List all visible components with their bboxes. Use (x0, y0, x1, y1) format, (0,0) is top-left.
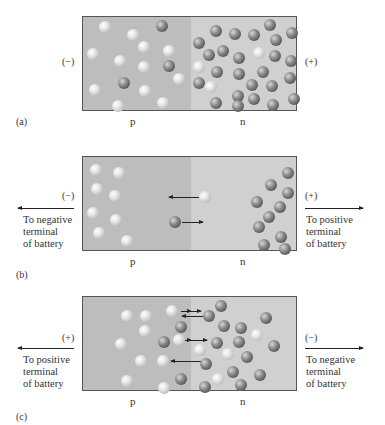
electron (210, 25, 222, 37)
hole (121, 235, 133, 247)
hole (163, 45, 175, 57)
hole (93, 227, 105, 239)
hole (113, 167, 125, 179)
hole (212, 373, 224, 385)
electron (233, 68, 245, 80)
electron (211, 337, 223, 349)
hole (99, 21, 111, 33)
arrow-segment (191, 316, 203, 317)
electron (267, 99, 279, 111)
electron (285, 55, 297, 67)
electron (203, 49, 215, 61)
right-terminal-label: To positive terminal of battery (306, 214, 353, 250)
arrow-right (305, 208, 363, 209)
hole (139, 325, 151, 337)
p-region (83, 157, 192, 250)
junction-box (82, 296, 297, 391)
junction-box (82, 16, 297, 111)
electron (215, 300, 227, 312)
electron (200, 358, 212, 370)
hole (87, 207, 99, 219)
electron (260, 312, 272, 324)
electron (257, 66, 269, 78)
arrow-left (18, 348, 74, 349)
electron (251, 196, 263, 208)
arrow-right (181, 311, 191, 312)
electron (118, 77, 130, 89)
hole (205, 81, 217, 93)
n-label: n (240, 115, 246, 127)
electron (233, 336, 245, 348)
hole (138, 61, 150, 73)
electron (158, 336, 170, 348)
arrow-right (191, 311, 201, 312)
electron (210, 97, 222, 109)
electron (156, 20, 168, 32)
arrow-left (18, 208, 74, 209)
hole (173, 73, 185, 85)
electron (248, 29, 260, 41)
electron (232, 100, 244, 112)
hole (90, 164, 102, 176)
electron (274, 201, 286, 213)
n-region (191, 157, 296, 250)
electron (217, 45, 229, 57)
electron (288, 93, 300, 105)
electron (269, 50, 281, 62)
electron (211, 66, 223, 78)
junction-box (82, 156, 297, 251)
left-polarity-label: (−) (62, 56, 74, 67)
n-label: n (240, 255, 246, 267)
electron (286, 27, 298, 39)
right-polarity-label: (−) (305, 332, 317, 343)
hole (135, 355, 147, 367)
electron (169, 216, 181, 228)
electron (218, 320, 230, 332)
arrow-left (169, 197, 191, 198)
electron (270, 34, 282, 46)
electron (265, 179, 277, 191)
hole (222, 348, 234, 360)
n-region (191, 17, 296, 110)
hole (199, 191, 211, 203)
electron (203, 310, 215, 322)
panel-b: (−) (+) To negative terminal of battery … (0, 140, 385, 280)
left-terminal-label: To positive terminal of battery (23, 354, 70, 390)
arrow-right (191, 340, 207, 341)
electron (254, 369, 266, 381)
arrow-segment (191, 197, 199, 198)
electron (193, 77, 205, 89)
electron (199, 381, 211, 393)
electron (275, 231, 287, 243)
hole (87, 48, 99, 60)
electron (268, 340, 280, 352)
p-label: p (130, 255, 136, 267)
hole (166, 305, 178, 317)
panel-caption: (c) (16, 411, 27, 423)
hole (89, 84, 101, 96)
hole (158, 382, 170, 394)
left-polarity-label: (−) (62, 190, 74, 201)
arrow-right (305, 348, 363, 349)
hole (110, 214, 122, 226)
electron (263, 211, 275, 223)
electron (253, 221, 265, 233)
p-label: p (130, 115, 136, 127)
hole (112, 100, 124, 112)
electron (235, 379, 247, 391)
hole (138, 41, 150, 53)
electron (279, 243, 291, 255)
panel-a: (−) (+) (0, 0, 385, 140)
p-label: p (130, 395, 136, 407)
electron (258, 239, 270, 251)
left-terminal-label: To negative terminal of battery (23, 214, 72, 250)
p-region (83, 17, 192, 110)
electron (163, 60, 175, 72)
hole (139, 85, 151, 97)
electron (284, 72, 296, 84)
panel-caption: (a) (16, 116, 27, 128)
electron (264, 19, 276, 31)
hole (157, 97, 169, 109)
arrow-right (191, 222, 203, 223)
right-polarity-label: (+) (305, 56, 317, 67)
